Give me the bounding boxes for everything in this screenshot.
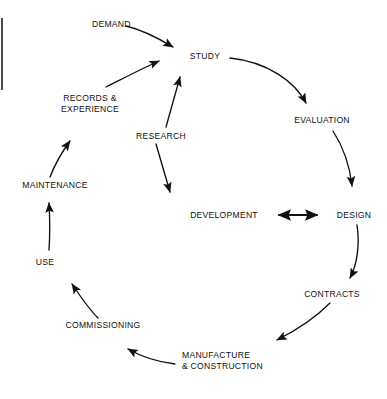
node-evaluation[interactable]: EVALUATION [294, 115, 350, 126]
edge-commissioning-to-use [72, 284, 98, 318]
node-manufacture-construction[interactable]: MANUFACTURE & CONSTRUCTION [182, 350, 263, 371]
node-design[interactable]: DESIGN [337, 210, 371, 221]
edge-contracts-to-manufacture [277, 303, 330, 340]
edge-study-to-evaluation [230, 58, 306, 103]
edge-research-to-study [166, 77, 180, 127]
node-study[interactable]: STUDY [190, 51, 220, 62]
node-development[interactable]: DEVELOPMENT [190, 210, 258, 221]
edge-demand-to-study [126, 26, 173, 47]
edge-research-to-development [156, 144, 170, 192]
diagram-canvas: DEMAND STUDY EVALUATION DESIGN DEVELOPME… [0, 0, 387, 399]
node-records-experience[interactable]: RECORDS & EXPERIENCE [61, 93, 119, 114]
edge-manufacture-to-commissioning [128, 349, 175, 364]
node-contracts[interactable]: CONTRACTS [304, 289, 360, 300]
node-commissioning[interactable]: COMMISSIONING [66, 320, 141, 331]
node-demand[interactable]: DEMAND [92, 19, 131, 30]
node-maintenance[interactable]: MAINTENANCE [22, 180, 87, 191]
edge-records-to-study [106, 61, 159, 87]
edge-design-to-contracts [350, 225, 358, 278]
edge-use-to-maintenance [49, 203, 50, 250]
node-use[interactable]: USE [36, 257, 54, 268]
edge-evaluation-to-design [333, 131, 352, 186]
node-research[interactable]: RESEARCH [136, 131, 186, 142]
edge-maintenance-to-records [50, 141, 70, 177]
